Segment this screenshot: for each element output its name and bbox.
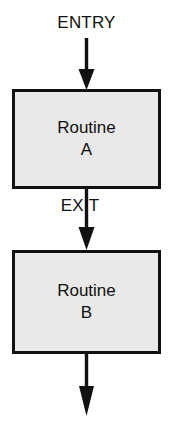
flowchart-diagram: ENTRY Routine A EXIT Routine B	[0, 0, 173, 433]
middle-arrowhead-icon	[79, 227, 95, 250]
entry-arrowhead-icon	[79, 69, 95, 90]
process-box-routine-b[interactable]: Routine B	[12, 250, 161, 354]
entry-arrow-connector	[0, 38, 173, 90]
routine-b-line-1: Routine	[57, 280, 116, 302]
routine-a-line-2: A	[81, 139, 92, 161]
entry-label: ENTRY	[0, 14, 173, 31]
routine-b-line-2: B	[81, 302, 92, 324]
exit-arrowhead-icon	[79, 386, 94, 416]
process-box-routine-a[interactable]: Routine A	[12, 89, 161, 189]
exit-arrow-connector	[0, 353, 173, 417]
routine-a-line-1: Routine	[57, 117, 116, 139]
exit-label: EXIT	[0, 197, 160, 214]
